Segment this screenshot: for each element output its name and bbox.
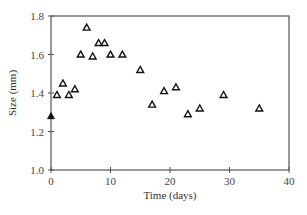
- data-points: [48, 24, 263, 119]
- open-triangle-marker: [77, 51, 84, 57]
- plot-border: [51, 16, 289, 170]
- open-triangle-marker: [83, 24, 90, 30]
- x-tick-label: 40: [284, 175, 296, 187]
- x-tick-label: 30: [224, 175, 236, 187]
- open-triangle-marker: [149, 101, 156, 107]
- y-tick-label: 1.4: [30, 87, 44, 99]
- open-triangle-marker: [54, 92, 61, 98]
- open-triangle-marker: [60, 80, 67, 86]
- open-triangle-marker: [256, 105, 263, 111]
- open-triangle-marker: [89, 53, 96, 59]
- open-triangle-marker: [220, 92, 227, 98]
- plot-frame: [51, 16, 289, 170]
- open-triangle-marker: [196, 105, 203, 111]
- y-tick-label: 1.8: [30, 10, 44, 22]
- y-axis-title: Size (mm): [6, 70, 19, 116]
- open-triangle-marker: [101, 40, 108, 46]
- y-tick-label: 1.0: [30, 164, 44, 176]
- open-triangle-marker: [161, 88, 168, 94]
- y-tick-label: 1.6: [30, 49, 44, 61]
- open-triangle-marker: [137, 67, 144, 73]
- x-axis-title: Time (days): [143, 189, 196, 202]
- filled-triangle-marker: [48, 113, 55, 119]
- open-triangle-marker: [71, 86, 78, 92]
- open-triangle-marker: [107, 51, 114, 57]
- open-triangle-marker: [173, 84, 180, 90]
- open-triangle-marker: [65, 92, 72, 98]
- x-tick-label: 20: [165, 175, 177, 187]
- open-triangle-marker: [119, 51, 126, 57]
- open-triangle-marker: [184, 111, 191, 117]
- x-tick-label: 10: [105, 175, 117, 187]
- y-tick-label: 1.2: [30, 126, 44, 138]
- scatter-chart: 1.01.21.41.61.8 010203040 Time (days) Si…: [0, 0, 307, 215]
- x-tick-label: 0: [48, 175, 54, 187]
